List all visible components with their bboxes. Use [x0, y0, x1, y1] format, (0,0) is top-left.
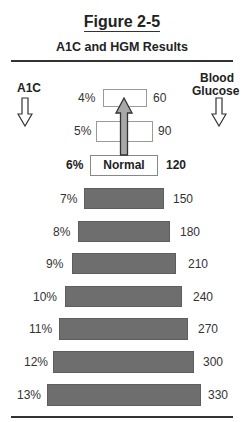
level-bar-9 — [72, 253, 176, 274]
glucose-value-180: 180 — [180, 225, 200, 239]
a1c-value-4: 4% — [78, 91, 95, 105]
a1c-value-13: 13% — [17, 388, 41, 402]
glucose-value-210: 210 — [188, 257, 208, 271]
level-bar-10 — [65, 286, 182, 307]
glucose-value-270: 270 — [198, 322, 218, 336]
glucose-value-330: 330 — [208, 388, 228, 402]
a1c-value-9: 9% — [46, 257, 63, 271]
level-bar-11 — [59, 318, 188, 340]
down-arrow-icon — [17, 97, 33, 127]
a1c-value-10: 10% — [33, 290, 57, 304]
a1c-value-6: 6% — [66, 158, 83, 172]
normal-box: Normal — [90, 155, 158, 176]
up-arrow-icon — [115, 97, 133, 157]
glucose-value-120: 120 — [166, 158, 186, 172]
a1c-axis-label: A1C — [17, 82, 41, 95]
glucose-value-240: 240 — [193, 290, 213, 304]
a1c-value-8: 8% — [53, 225, 70, 239]
a1c-value-11: 11% — [29, 322, 52, 336]
level-bar-7 — [84, 188, 164, 209]
glucose-value-60: 60 — [153, 91, 166, 105]
blood-glucose-axis-label: Blood Glucose — [192, 72, 234, 98]
level-bar-12 — [53, 351, 194, 373]
a1c-value-5: 5% — [74, 124, 91, 138]
a1c-value-12: 12% — [24, 355, 48, 369]
down-arrow-icon — [211, 97, 227, 127]
figure-subtitle: A1C and HGM Results — [0, 40, 244, 54]
level-bar-13 — [47, 384, 201, 406]
top-divider — [11, 60, 233, 62]
glucose-value-300: 300 — [203, 355, 223, 369]
glucose-value-150: 150 — [173, 192, 193, 206]
bottom-divider — [11, 416, 233, 418]
normal-label: Normal — [91, 156, 157, 175]
a1c-value-7: 7% — [60, 192, 77, 206]
glucose-value-90: 90 — [158, 124, 171, 138]
level-bar-8 — [78, 221, 170, 242]
figure-title: Figure 2-5 — [0, 13, 244, 31]
